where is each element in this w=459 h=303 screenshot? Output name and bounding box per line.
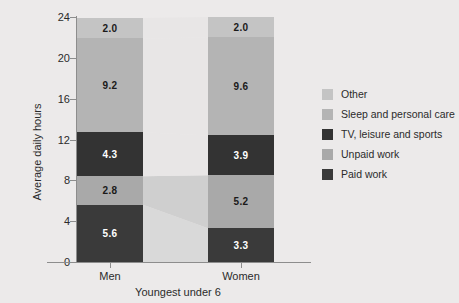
bar-segment-value: 2.8 — [103, 185, 118, 196]
bar-segment-value: 2.0 — [103, 23, 118, 34]
bar-segment[interactable]: 3.9 — [208, 135, 274, 175]
legend-swatch-icon — [322, 109, 333, 120]
legend-swatch-icon — [322, 169, 333, 180]
bar-segment-value: 2.0 — [234, 22, 249, 33]
x-tick-label-women: Women — [222, 270, 260, 282]
legend-item[interactable]: TV, leisure and sports — [322, 128, 455, 140]
x-tick-mark — [110, 263, 111, 268]
bar-segment[interactable]: 4.3 — [77, 132, 143, 176]
y-tick-label: 4 — [46, 215, 70, 227]
ribbon-other — [143, 17, 208, 38]
legend-item[interactable]: Sleep and personal care — [322, 108, 455, 120]
legend-label: Paid work — [341, 168, 387, 180]
bar-segment-value: 5.6 — [103, 228, 118, 239]
bar-segment-value: 9.2 — [103, 80, 118, 91]
bar-segment[interactable]: 2.8 — [77, 176, 143, 205]
bar-segment-value: 5.2 — [234, 196, 249, 207]
ribbon-sleep-and-personal-care — [143, 37, 208, 135]
ribbon-tv-leisure-and-sports — [143, 132, 208, 176]
x-axis-title: Youngest under 6 — [135, 286, 221, 298]
y-axis-ticks: 04812162024 — [0, 0, 70, 303]
legend-label: Unpaid work — [341, 148, 399, 160]
bar-segment[interactable]: 5.2 — [208, 175, 274, 228]
bar-segment-value: 3.3 — [234, 240, 249, 251]
bar-segment[interactable]: 9.2 — [77, 38, 143, 132]
y-tick-label: 8 — [46, 174, 70, 186]
legend-item[interactable]: Other — [322, 88, 455, 100]
legend-label: Other — [341, 88, 367, 100]
legend-item[interactable]: Paid work — [322, 168, 455, 180]
legend-swatch-icon — [322, 129, 333, 140]
bar-women[interactable]: 3.35.23.99.62.0 — [208, 17, 274, 262]
y-tick-label: 24 — [46, 11, 70, 23]
bar-segment[interactable]: 3.3 — [208, 228, 274, 262]
bar-segment[interactable]: 9.6 — [208, 37, 274, 135]
y-tick-label: 20 — [46, 52, 70, 64]
bar-men[interactable]: 5.62.84.39.22.0 — [77, 17, 143, 262]
x-tick-label-men: Men — [99, 270, 120, 282]
legend-swatch-icon — [322, 89, 333, 100]
bar-segment-value: 9.6 — [234, 81, 249, 92]
y-tick-label: 12 — [46, 134, 70, 146]
bar-segment[interactable]: 2.0 — [208, 17, 274, 37]
x-tick-mark — [241, 263, 242, 268]
bar-segment-value: 4.3 — [103, 149, 118, 160]
x-axis-line — [47, 262, 311, 263]
legend-label: TV, leisure and sports — [341, 128, 442, 140]
bar-segment[interactable]: 2.0 — [77, 18, 143, 38]
plot-area: 5.62.84.39.22.03.35.23.99.62.0 — [77, 17, 310, 262]
bar-segment[interactable]: 5.6 — [77, 205, 143, 262]
legend-swatch-icon — [322, 149, 333, 160]
bar-segment-value: 3.9 — [234, 150, 249, 161]
legend-item[interactable]: Unpaid work — [322, 148, 455, 160]
chart-legend: OtherSleep and personal careTV, leisure … — [322, 88, 455, 180]
stacked-bar-chart: Average daily hours 04812162024 5.62.84.… — [0, 0, 459, 303]
y-tick-label: 16 — [46, 93, 70, 105]
legend-label: Sleep and personal care — [341, 108, 455, 120]
